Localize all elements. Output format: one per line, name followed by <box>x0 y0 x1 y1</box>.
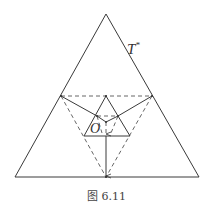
geometry-diagram: T* O <box>0 0 213 209</box>
label-o: O <box>90 121 100 136</box>
point-inner-right <box>117 115 119 117</box>
outer-triangle <box>15 14 199 177</box>
point-right-mid <box>151 95 153 97</box>
point-center <box>105 121 107 123</box>
point-inner-apex <box>105 95 107 97</box>
point-left-mid <box>60 95 62 97</box>
point-bottom-center <box>105 176 107 178</box>
point-inner-left <box>96 115 98 117</box>
figure-caption: 图 6.11 <box>0 187 213 203</box>
label-t-star: T* <box>127 40 140 57</box>
